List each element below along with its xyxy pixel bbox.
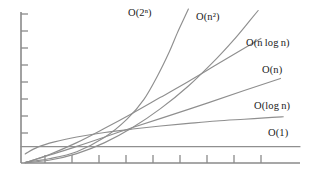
label-linear: O(n) — [262, 64, 282, 75]
label-logarithmic: O(log n) — [254, 100, 290, 111]
curve-o-n- — [25, 10, 258, 162]
curve-o-n- — [25, 78, 280, 162]
curve-o-2- — [25, 9, 188, 162]
y-axis-ticks — [21, 14, 28, 133]
complexity-curves — [21, 9, 300, 163]
big-o-complexity-chart: O(2ⁿ) O(n²) O(n log n) O(n) O(log n) O(1… — [0, 0, 316, 172]
label-linearithmic: O(n log n) — [246, 37, 290, 48]
label-exponential: O(2ⁿ) — [128, 7, 152, 18]
plot-area — [0, 0, 316, 172]
label-quadratic: O(n²) — [196, 11, 219, 22]
label-constant: O(1) — [268, 127, 288, 138]
x-axis-ticks — [45, 155, 261, 163]
